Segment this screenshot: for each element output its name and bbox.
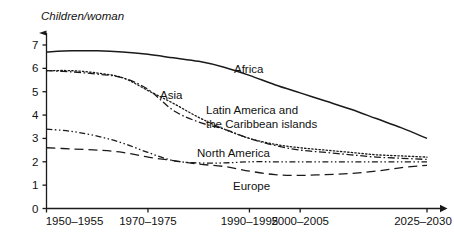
x-tick-label: 1970–1975 — [119, 215, 177, 227]
series-annotation: Latin America and — [206, 104, 298, 116]
x-tick-label: 2000–2005 — [271, 215, 329, 227]
x-tick-label: 2025–2030 — [394, 215, 452, 227]
y-tick-label: 7 — [32, 39, 38, 51]
y-axis-title: Children/woman — [41, 10, 124, 22]
y-tick-label: 1 — [32, 179, 38, 191]
y-tick-label: 0 — [32, 203, 38, 215]
x-tick-group: 1950–19551970–19751990–19952000–20052025… — [46, 209, 452, 227]
y-tick-label: 3 — [32, 132, 38, 144]
y-tick-label: 2 — [32, 156, 38, 168]
chart-svg: Children/woman 01234567 1950–19551970–19… — [0, 0, 454, 243]
series-annotation: the Caribbean islands — [206, 118, 317, 130]
annotation-group: AfricaAsiaLatin America andthe Caribbean… — [160, 63, 317, 192]
x-tick-label: 1990–1995 — [221, 215, 279, 227]
y-tick-label: 4 — [32, 109, 39, 121]
y-tick-group: 01234567 — [32, 39, 46, 215]
x-tick-label: 1950–1955 — [46, 215, 104, 227]
series-annotation: North America — [197, 147, 270, 159]
y-tick-label: 5 — [32, 86, 38, 98]
fertility-rate-chart: Children/woman 01234567 1950–19551970–19… — [0, 0, 454, 243]
series-annotation: Africa — [234, 63, 264, 75]
series-annotation: Asia — [160, 89, 183, 101]
y-tick-label: 6 — [32, 62, 38, 74]
series-annotation: Europe — [233, 180, 270, 192]
